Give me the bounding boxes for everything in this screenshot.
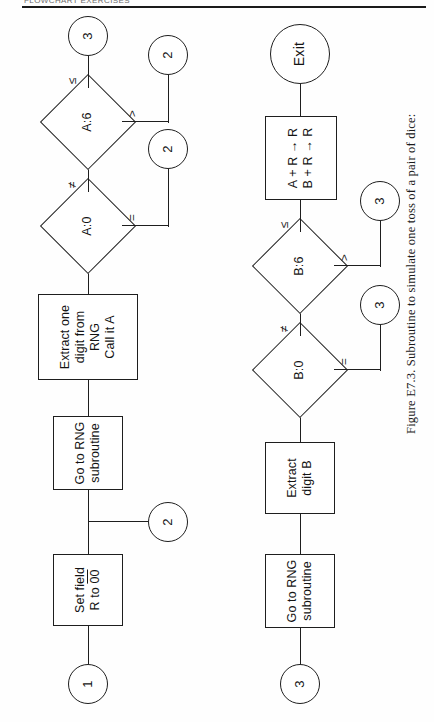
- flowchart-rotated-wrapper: 1 Set field R to 00 2 Go to RNG subrouti…: [0, 18, 395, 718]
- edge-a6-lessequal: [88, 56, 89, 88]
- connector-out-3b: 3: [360, 285, 400, 325]
- edge-b0-equal-down: [334, 369, 380, 370]
- edge-a0-equal-down: [122, 225, 168, 226]
- connector-out-2b: 2: [148, 35, 188, 75]
- branch-label-a6-greater: >: [126, 110, 138, 117]
- connector-start-1: 1: [68, 664, 108, 704]
- page-canvas: FLOWCHART EXERCISES Figure E7.3. Subrout…: [0, 0, 434, 722]
- edge-b6-greater-down: [334, 265, 380, 266]
- figure-caption: Figure E7.3. Subroutine to simulate one …: [404, 113, 419, 434]
- process-goto-rng-b-line2: subroutine: [300, 561, 315, 620]
- running-head-rule: [22, 6, 426, 8]
- process-goto-rng-a-line2: subroutine: [88, 423, 103, 482]
- terminal-exit-label: Exit: [291, 42, 308, 67]
- connector-out-3b-label: 3: [372, 301, 388, 308]
- edge-gotorngb-to-extractb: [300, 514, 301, 554]
- connector-out-3c-label: 3: [372, 197, 388, 204]
- connector-out-3a-label: 3: [80, 32, 96, 39]
- decision-b-zero-label: B:0: [292, 360, 307, 379]
- connector-out-2b-label: 2: [160, 51, 176, 58]
- process-extract-a: Extract one digit from RNG Call it A: [38, 294, 138, 380]
- process-accumulate-line1: A + R → R: [286, 128, 301, 188]
- edge-a6-greater-across: [168, 75, 169, 123]
- process-extract-b: Extract digit B: [265, 442, 335, 514]
- decision-b-six: B:6: [266, 232, 334, 300]
- terminal-exit: Exit: [270, 24, 330, 84]
- branch-label-a0-equal: =: [126, 214, 138, 221]
- branch-label-b0-notequal: ≠: [278, 326, 290, 332]
- connector-out-2a: 2: [148, 129, 188, 169]
- decision-b-six-label: B:6: [292, 256, 307, 275]
- edge-b6-greater-across: [380, 221, 381, 267]
- decision-a-zero-label: A:0: [80, 216, 95, 235]
- running-head-text: FLOWCHART EXERCISES: [24, 0, 204, 5]
- process-extract-b-line2: digit B: [300, 460, 315, 495]
- decision-b-zero: B:0: [266, 336, 334, 404]
- process-set-field-line1: Set field: [73, 567, 88, 613]
- branch-label-a6-lessequal: ≤: [66, 78, 78, 84]
- process-extract-a-line3: Call it A: [103, 315, 118, 358]
- connector-entry-2-label: 2: [160, 518, 176, 525]
- flowchart: 1 Set field R to 00 2 Go to RNG subrouti…: [0, 18, 395, 718]
- connector-out-3c: 3: [360, 181, 400, 221]
- process-goto-rng-a-line1: Go to RNG: [73, 422, 88, 485]
- edge-entry2-to-mainline: [88, 521, 148, 522]
- connector-out-3a: 3: [68, 16, 108, 56]
- decision-a-six: A:6: [54, 88, 122, 156]
- branch-label-b0-equal: =: [338, 358, 350, 365]
- process-set-field-line2: R to 00: [88, 570, 103, 611]
- branch-label-b6-lessequal: ≤: [278, 222, 290, 228]
- process-goto-rng-b-line1: Go to RNG: [285, 560, 300, 623]
- edge-b0-equal-across: [380, 325, 381, 371]
- edge-a6-greater-down: [122, 121, 168, 122]
- process-goto-rng-b: Go to RNG subroutine: [265, 554, 335, 628]
- edge-gotorng-to-extracta: [88, 380, 89, 416]
- process-accumulate-line2: B + R → R: [301, 128, 316, 189]
- connector-out-2a-label: 2: [160, 145, 176, 152]
- connector-start-3-label: 3: [292, 680, 308, 687]
- process-set-field: Set field R to 00: [53, 554, 123, 626]
- process-extract-b-line1: Extract: [285, 458, 300, 498]
- edge-a0-equal-across: [168, 169, 169, 227]
- process-extract-a-line2: digit from RNG: [73, 298, 104, 376]
- connector-start-1-label: 1: [80, 680, 96, 687]
- edge-accumulate-to-exit: [300, 84, 301, 116]
- process-goto-rng-a: Go to RNG subroutine: [53, 416, 123, 490]
- edge-1-to-setfield: [88, 626, 89, 664]
- process-accumulate: A + R → R B + R → R: [265, 116, 337, 200]
- process-extract-a-line1: Extract one: [58, 305, 73, 369]
- edge-3-to-gotorngb: [300, 628, 301, 664]
- edge-b6-lessequal: [300, 200, 301, 232]
- decision-a-six-label: A:6: [80, 112, 95, 131]
- branch-label-b6-greater: >: [338, 254, 350, 261]
- decision-a-zero: A:0: [54, 192, 122, 260]
- connector-entry-2: 2: [148, 502, 188, 542]
- branch-label-a0-notequal: ≠: [66, 182, 78, 188]
- connector-start-3: 3: [280, 664, 320, 704]
